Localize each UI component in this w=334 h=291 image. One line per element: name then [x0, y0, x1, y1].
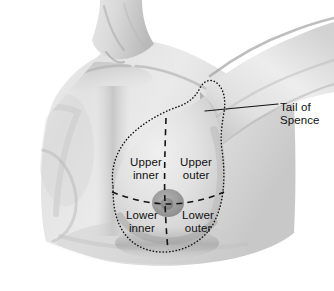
- tail-of-spence-line-2: Spence: [280, 114, 320, 127]
- tail-of-spence-label: Tail of Spence: [280, 101, 320, 126]
- upper-inner-line-2: inner: [123, 169, 169, 182]
- quadrant-label-upper-inner: Upper inner: [123, 156, 169, 181]
- anatomy-drawing: [0, 0, 334, 291]
- lower-inner-line-2: inner: [119, 222, 165, 235]
- lower-inner-line-1: Lower: [119, 209, 165, 222]
- right-margin-fade: [292, 150, 334, 240]
- lower-outer-line-1: Lower: [175, 209, 221, 222]
- quadrant-label-lower-outer: Lower outer: [175, 209, 221, 234]
- upper-outer-line-2: outer: [173, 169, 219, 182]
- lower-outer-line-2: outer: [175, 222, 221, 235]
- tail-of-spence-line-1: Tail of: [280, 101, 320, 114]
- breast-quadrant-illustration: Tail of Spence Upper inner Upper outer L…: [0, 0, 334, 291]
- quadrant-label-lower-inner: Lower inner: [119, 209, 165, 234]
- quadrant-label-upper-outer: Upper outer: [173, 156, 219, 181]
- upper-inner-line-1: Upper: [123, 156, 169, 169]
- upper-outer-line-1: Upper: [173, 156, 219, 169]
